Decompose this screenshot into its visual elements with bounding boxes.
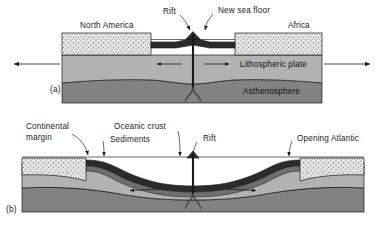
label-asthenosphere: Asthenosphere xyxy=(243,87,300,96)
label-sediments: Sediments xyxy=(110,135,150,144)
panel-a-north-america-block xyxy=(62,33,151,55)
label-continental-margin-line2: margin xyxy=(26,133,52,142)
label-oceanic-crust: Oceanic crust xyxy=(114,122,166,131)
panel-a-africa-block xyxy=(235,33,322,55)
label-continental-margin-line1: Continental xyxy=(26,122,69,131)
label-north-america: North America xyxy=(80,21,134,30)
label-rift-panel-b: Rift xyxy=(203,134,216,143)
label-rift-panel-a: Rift xyxy=(163,7,176,16)
figure-canvas xyxy=(0,0,386,226)
label-africa: Africa xyxy=(288,21,310,30)
label-opening-atlantic: Opening Atlantic xyxy=(297,134,359,143)
panel-b-key: (b) xyxy=(6,205,17,214)
label-lithospheric-plate: Lithospheric plate xyxy=(240,60,307,69)
label-new-sea-floor: New sea floor xyxy=(218,6,270,15)
panel-a-key: (a) xyxy=(50,85,61,94)
seafloor-spreading-figure: North America Africa Rift New sea floor … xyxy=(0,0,386,226)
